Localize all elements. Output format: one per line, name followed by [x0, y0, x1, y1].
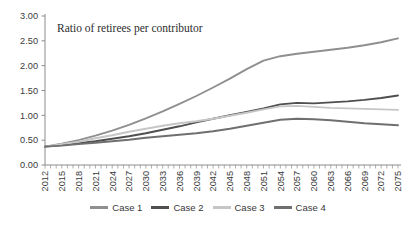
legend-item-case-4: Case 4: [274, 202, 326, 213]
x-tick-label: 2015: [57, 171, 67, 191]
x-tick-label: 2033: [158, 171, 168, 191]
x-tick-label: 2054: [276, 171, 286, 191]
x-tick-label: 2024: [108, 171, 118, 191]
x-tick-label: 2042: [208, 171, 218, 191]
x-tick-label: 2048: [242, 171, 252, 191]
x-tick-label: 2057: [292, 171, 302, 191]
x-tick-label: 2036: [175, 171, 185, 191]
chart-svg: 0.000.501.001.502.002.503.00201220152018…: [0, 0, 416, 230]
x-tick-label: 2027: [124, 171, 134, 191]
x-tick-label: 2045: [225, 171, 235, 191]
legend-swatch-case-4: [274, 206, 292, 208]
y-tick-label: 2.00: [20, 61, 38, 71]
chart-title: Ratio of retirees per contributor: [57, 22, 203, 34]
y-tick-label: 3.00: [20, 11, 38, 21]
legend-label-case-4: Case 4: [296, 202, 326, 213]
x-tick-label: 2060: [309, 171, 319, 191]
legend: Case 1Case 2Case 3Case 4: [0, 202, 416, 213]
x-tick-label: 2075: [393, 171, 403, 191]
x-tick-label: 2066: [343, 171, 353, 191]
legend-label-case-1: Case 1: [112, 202, 142, 213]
legend-swatch-case-1: [90, 206, 108, 208]
y-tick-label: 0.00: [20, 160, 38, 170]
y-tick-label: 1.00: [20, 111, 38, 121]
x-tick-label: 2051: [259, 171, 269, 191]
x-tick-label: 2039: [192, 171, 202, 191]
x-tick-label: 2021: [91, 171, 101, 191]
x-tick-label: 2072: [376, 171, 386, 191]
series-line-case-4: [45, 119, 398, 147]
legend-item-case-2: Case 2: [151, 202, 203, 213]
y-tick-label: 1.50: [20, 86, 38, 96]
chart-figure: 0.000.501.001.502.002.503.00201220152018…: [0, 0, 416, 230]
y-tick-label: 2.50: [20, 36, 38, 46]
legend-label-case-2: Case 2: [173, 202, 203, 213]
x-tick-label: 2063: [326, 171, 336, 191]
legend-swatch-case-2: [151, 206, 169, 208]
legend-swatch-case-3: [213, 206, 231, 208]
legend-item-case-3: Case 3: [213, 202, 265, 213]
legend-item-case-1: Case 1: [90, 202, 142, 213]
x-tick-label: 2030: [141, 171, 151, 191]
y-tick-label: 0.50: [20, 135, 38, 145]
x-tick-label: 2012: [40, 171, 50, 191]
x-tick-label: 2069: [360, 171, 370, 191]
x-tick-label: 2018: [74, 171, 84, 191]
legend-label-case-3: Case 3: [235, 202, 265, 213]
